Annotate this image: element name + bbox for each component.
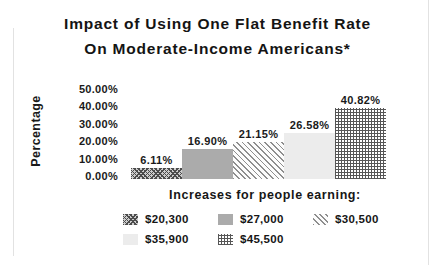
legend: $20,300 $27,000 $30,500 $35,900 $45,500 <box>123 211 408 247</box>
bar-45500: 40.82% <box>335 108 386 179</box>
bar-value-label: 21.15% <box>239 128 279 140</box>
x-axis-title: Increases for people earning: <box>110 188 420 202</box>
bar-value-label: 6.11% <box>140 154 173 166</box>
bar-plot-area: 6.11% 16.90% 21.15% 26.58% 40.82% <box>131 84 386 179</box>
y-tick-0: 0.00% <box>85 170 118 182</box>
legend-swatch-grid <box>218 234 233 245</box>
bar-value-label: 40.82% <box>341 94 381 106</box>
legend-swatch-light-gray <box>123 234 138 245</box>
legend-item: $35,900 <box>123 231 218 247</box>
legend-swatch-diagonal <box>313 214 328 225</box>
y-tick-50: 50.00% <box>79 83 118 95</box>
legend-item: $45,500 <box>218 231 313 247</box>
legend-swatch-crosshatch <box>123 214 138 225</box>
legend-label: $45,500 <box>240 233 284 245</box>
chart-image: Impact of Using One Flat Benefit Rate On… <box>0 0 435 265</box>
bar-27000: 16.90% <box>182 149 233 179</box>
bar-20300: 6.11% <box>131 168 182 179</box>
left-edge-artifact <box>13 28 14 256</box>
legend-label: $30,500 <box>335 213 379 225</box>
legend-label: $27,000 <box>240 213 284 225</box>
y-tick-20: 20.00% <box>79 135 118 147</box>
legend-label: $20,300 <box>145 213 189 225</box>
y-axis-ticks: 50.00% 40.00% 30.00% 20.00% 10.00% 0.00% <box>56 83 118 182</box>
chart-title: Impact of Using One Flat Benefit Rate On… <box>0 11 435 61</box>
legend-swatch-solid-gray <box>218 214 233 225</box>
legend-item: $30,500 <box>313 211 408 227</box>
legend-item: $20,300 <box>123 211 218 227</box>
bar-value-label: 16.90% <box>188 135 228 147</box>
legend-label: $35,900 <box>145 233 189 245</box>
legend-item: $27,000 <box>218 211 313 227</box>
chart-title-line1: Impact of Using One Flat Benefit Rate <box>0 11 435 36</box>
bar-value-label: 26.58% <box>290 119 330 131</box>
y-tick-30: 30.00% <box>79 118 118 130</box>
bar-30500: 21.15% <box>233 142 284 179</box>
y-tick-10: 10.00% <box>79 153 118 165</box>
y-axis-label: Percentage <box>29 95 43 166</box>
bar-35900: 26.58% <box>284 133 335 180</box>
y-tick-40: 40.00% <box>79 100 118 112</box>
chart-title-line2: On Moderate-Income Americans* <box>0 36 435 61</box>
